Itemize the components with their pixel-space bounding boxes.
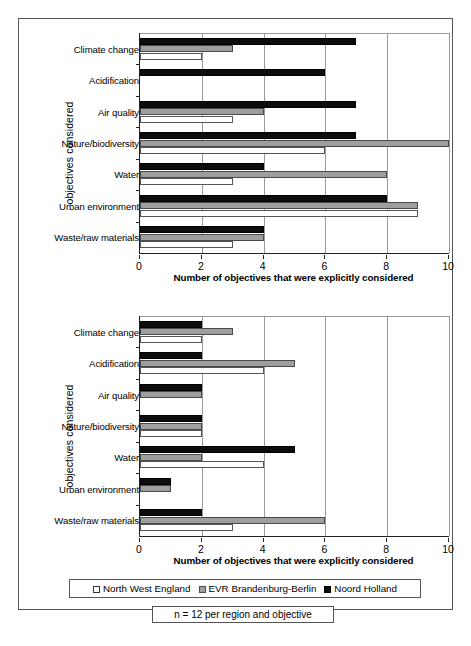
y-axis-tick bbox=[136, 505, 140, 506]
x-axis-title-top: Number of objectives that were explicitl… bbox=[139, 272, 448, 283]
x-axis-title-bottom: Number of objectives that were explicitl… bbox=[139, 555, 448, 566]
x-axis-tick bbox=[448, 255, 449, 259]
bar bbox=[140, 195, 387, 202]
y-axis-tick bbox=[136, 442, 140, 443]
y-axis-tick bbox=[136, 190, 140, 191]
bar bbox=[140, 430, 202, 437]
gridline bbox=[325, 316, 326, 536]
gridline bbox=[202, 316, 203, 536]
y-axis-tick bbox=[136, 64, 140, 65]
y-axis-tick bbox=[136, 410, 140, 411]
sample-size-note: n = 12 per region and objective bbox=[152, 606, 334, 623]
bar bbox=[140, 446, 295, 453]
x-axis-tick bbox=[324, 538, 325, 542]
x-axis-tick-label: 4 bbox=[260, 260, 266, 272]
x-axis-tick bbox=[201, 255, 202, 259]
bar bbox=[140, 38, 356, 45]
x-axis-tick-label: 2 bbox=[198, 543, 204, 555]
bar bbox=[140, 478, 171, 485]
category-label: Air quality bbox=[45, 389, 139, 400]
legend-swatch-icon bbox=[199, 586, 206, 593]
x-axis-tick-label: 8 bbox=[383, 543, 389, 555]
x-axis-tick-label: 10 bbox=[442, 543, 454, 555]
legend-item: EVR Brandenburg-Berlin bbox=[199, 583, 317, 594]
bar bbox=[140, 485, 171, 492]
legend-label: EVR Brandenburg-Berlin bbox=[209, 583, 317, 594]
figure: objectives considered Climate changeAcid… bbox=[0, 0, 471, 646]
chart-panel-bottom: objectives considered Climate changeAcid… bbox=[19, 306, 454, 566]
chart-panel-top: objectives considered Climate changeAcid… bbox=[19, 23, 454, 283]
legend-label: North West England bbox=[103, 583, 191, 594]
category-label: Climate change bbox=[45, 326, 139, 337]
legend-swatch-icon bbox=[93, 586, 100, 593]
x-axis-tick-label: 0 bbox=[136, 260, 142, 272]
bar bbox=[140, 132, 356, 139]
x-axis-tick bbox=[139, 255, 140, 259]
bar bbox=[140, 108, 264, 115]
bar bbox=[140, 328, 233, 335]
category-label: Acidification bbox=[45, 358, 139, 369]
bar bbox=[140, 140, 449, 147]
category-label: Water bbox=[45, 452, 139, 463]
x-axis-tick bbox=[386, 538, 387, 542]
bar bbox=[140, 178, 233, 185]
x-axis-tick-label: 2 bbox=[198, 260, 204, 272]
bar bbox=[140, 384, 202, 391]
category-label: Acidification bbox=[45, 75, 139, 86]
bar bbox=[140, 524, 233, 531]
gridline bbox=[449, 33, 450, 253]
category-label: Water bbox=[45, 169, 139, 180]
x-axis-tick bbox=[386, 255, 387, 259]
bar bbox=[140, 367, 264, 374]
y-axis-tick bbox=[136, 159, 140, 160]
bar bbox=[140, 101, 356, 108]
plot-top-border bbox=[140, 316, 449, 317]
bar bbox=[140, 423, 202, 430]
bar bbox=[140, 415, 202, 422]
category-labels-top: Climate changeAcidificationAir qualityNa… bbox=[45, 33, 139, 253]
x-axis-tick-label: 6 bbox=[321, 543, 327, 555]
y-axis-tick bbox=[136, 347, 140, 348]
gridline bbox=[449, 316, 450, 536]
y-axis-tick bbox=[136, 222, 140, 223]
category-label: Climate change bbox=[45, 43, 139, 54]
bar bbox=[140, 226, 264, 233]
bar bbox=[140, 241, 233, 248]
x-axis-tick-label: 8 bbox=[383, 260, 389, 272]
x-axis-tick bbox=[201, 538, 202, 542]
x-axis-tick bbox=[324, 255, 325, 259]
bar bbox=[140, 69, 325, 76]
bar bbox=[140, 360, 295, 367]
bar bbox=[140, 171, 387, 178]
category-label: Waste/raw materials bbox=[45, 515, 139, 526]
bar bbox=[140, 163, 264, 170]
bar bbox=[140, 454, 202, 461]
plot-top-border bbox=[140, 33, 449, 34]
x-axis-tick bbox=[448, 538, 449, 542]
plot-area-bottom bbox=[139, 316, 449, 537]
x-axis-tick bbox=[139, 538, 140, 542]
category-label: Nature/biodiversity bbox=[45, 421, 139, 432]
x-axis-tick bbox=[263, 255, 264, 259]
category-label: Nature/biodiversity bbox=[45, 138, 139, 149]
bar bbox=[140, 147, 325, 154]
legend-item: Noord Holland bbox=[324, 583, 397, 594]
legend-swatch-icon bbox=[324, 586, 331, 593]
bar bbox=[140, 321, 202, 328]
x-axis-tick bbox=[263, 538, 264, 542]
figure-frame: objectives considered Climate changeAcid… bbox=[18, 18, 453, 610]
category-label: Urban environment bbox=[45, 200, 139, 211]
bar bbox=[140, 391, 202, 398]
x-axis-tick-label: 4 bbox=[260, 543, 266, 555]
category-label: Air quality bbox=[45, 106, 139, 117]
bar bbox=[140, 202, 418, 209]
bar bbox=[140, 509, 202, 516]
legend-label: Noord Holland bbox=[334, 583, 397, 594]
gridline bbox=[387, 316, 388, 536]
bar bbox=[140, 45, 233, 52]
plot-area-top bbox=[139, 33, 449, 254]
y-axis-tick bbox=[136, 127, 140, 128]
x-axis-tick-label: 6 bbox=[321, 260, 327, 272]
y-axis-tick bbox=[136, 379, 140, 380]
bar bbox=[140, 336, 202, 343]
